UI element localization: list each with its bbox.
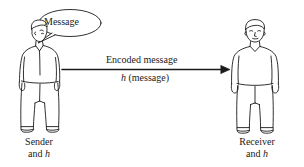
receiver-caption: Receiverand h bbox=[222, 136, 292, 159]
sender-caption: Senderand h bbox=[4, 136, 74, 159]
sender-hash-symbol: h bbox=[45, 148, 50, 159]
arrow-hash-argument: (message) bbox=[126, 72, 169, 83]
sender-caption-line2: and h bbox=[4, 148, 74, 160]
sender-caption-and: and bbox=[28, 148, 45, 159]
sender-caption-line1: Sender bbox=[4, 136, 74, 148]
receiver-caption-and: and bbox=[246, 148, 263, 159]
sender-figure bbox=[19, 20, 60, 132]
receiver-figure bbox=[231, 20, 278, 134]
hash-communication-diagram: Message Encoded message h (message) Send… bbox=[0, 0, 304, 167]
receiver-caption-line2: and h bbox=[222, 148, 292, 160]
receiver-hash-symbol: h bbox=[263, 148, 268, 159]
speech-bubble-text: Message bbox=[44, 16, 79, 28]
arrow-bottom-label: h (message) bbox=[121, 72, 169, 84]
arrow-top-label: Encoded message bbox=[106, 54, 177, 66]
receiver-caption-line1: Receiver bbox=[222, 136, 292, 148]
